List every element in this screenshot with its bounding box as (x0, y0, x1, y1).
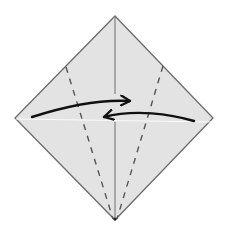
bottom-vertex (113, 217, 116, 220)
diagram-svg (0, 0, 228, 230)
origami-diagram (0, 0, 228, 230)
